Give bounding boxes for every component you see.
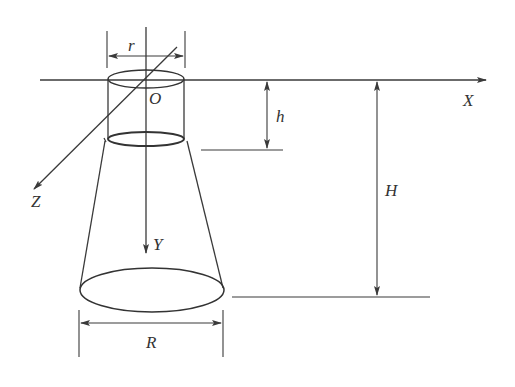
y-axis: Y (146, 27, 164, 254)
dimension-h: h (201, 82, 285, 150)
dimension-H: H (232, 82, 430, 297)
cylinder-cone-diagram: X Y Z O r h H (0, 0, 515, 387)
x-axis-label: X (462, 91, 474, 110)
dimension-r-label: r (128, 36, 135, 55)
dimension-H-label: H (384, 181, 399, 200)
z-axis: Z (31, 47, 177, 211)
dimension-R-label: R (145, 333, 157, 352)
z-axis-label: Z (31, 192, 41, 211)
x-axis: X (40, 80, 486, 110)
origin-label: O (149, 89, 161, 108)
y-axis-label: Y (153, 235, 164, 254)
truncated-cone (80, 138, 224, 312)
dimension-h-label: h (276, 107, 285, 126)
dimension-R: R (79, 310, 223, 357)
